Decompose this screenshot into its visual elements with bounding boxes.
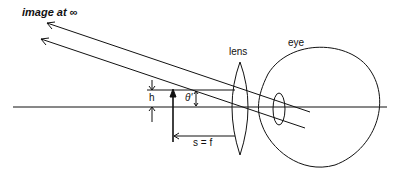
- height-label: h: [149, 93, 155, 103]
- eye-label: eye: [288, 38, 304, 48]
- image-at-infinity-label: image at ∞: [22, 7, 78, 18]
- magnifier-diagram: image at ∞ lens eye h θ' s = f: [0, 0, 396, 175]
- diagram-drawing: [0, 0, 396, 175]
- lens-label: lens: [229, 47, 247, 57]
- ray-upper: [47, 23, 310, 112]
- eye-pupil-lens: [273, 93, 285, 125]
- angle-label: θ': [185, 93, 192, 103]
- distance-label: s = f: [193, 138, 212, 148]
